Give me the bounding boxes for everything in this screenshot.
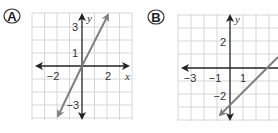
graph-a-y-tick: 1	[72, 47, 78, 59]
choice-a[interactable]: A	[4, 9, 132, 121]
graph-b-y-label: y	[234, 13, 240, 25]
graph-a-y-tick: −3	[66, 99, 79, 111]
choice-b-label: B	[151, 10, 160, 25]
graph-b-x-tick: 1	[240, 72, 246, 84]
graph-b-x-tick: −3	[184, 72, 197, 84]
graph-a-y-tick: 3	[72, 21, 78, 33]
choice-a-badge[interactable]: A	[4, 9, 20, 24]
graph-a-x-tick: 2	[105, 70, 111, 82]
graph-a-y-label: y	[86, 12, 92, 24]
choice-b[interactable]: B y −3	[148, 10, 278, 122]
choice-b-badge[interactable]: B	[148, 10, 164, 25]
graph-a-x-tick: −2	[47, 70, 60, 82]
graph-a-x-label: x	[124, 70, 130, 82]
graph-b-y-tick: −2	[213, 90, 226, 102]
graph-b-x-tick: −1	[209, 72, 222, 84]
graph-b-y-tick: 2	[220, 36, 226, 48]
choice-a-label: A	[7, 9, 17, 24]
graph-choices: A	[0, 0, 278, 133]
